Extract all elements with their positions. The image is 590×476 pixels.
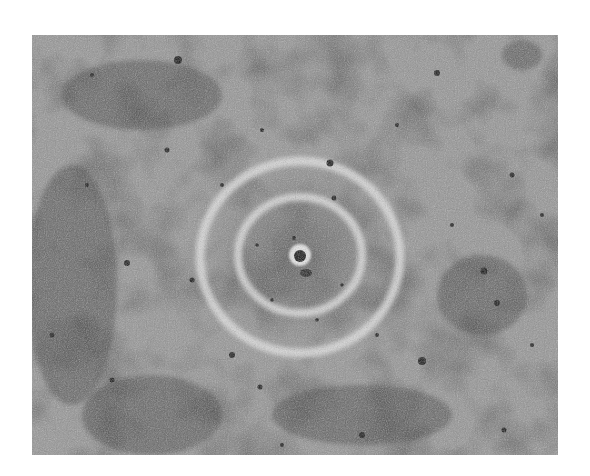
surface-texture-graphic <box>32 35 558 455</box>
surface-photograph <box>32 35 558 455</box>
